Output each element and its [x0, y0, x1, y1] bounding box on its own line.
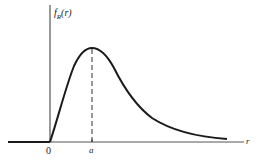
density-diagram: fR(r) 0 a r	[0, 0, 257, 162]
x-axis-label: r	[246, 137, 250, 146]
diagram-canvas	[0, 0, 257, 162]
mode-label: a	[89, 146, 94, 155]
y-axis-label: fR(r)	[54, 8, 72, 21]
origin-label: 0	[46, 146, 51, 156]
density-curve	[50, 48, 227, 142]
